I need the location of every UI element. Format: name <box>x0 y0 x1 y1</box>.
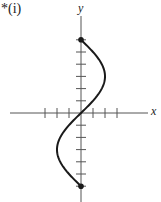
plot-area <box>0 0 161 202</box>
endpoint-dot <box>78 37 84 43</box>
endpoint-dot <box>78 183 84 189</box>
